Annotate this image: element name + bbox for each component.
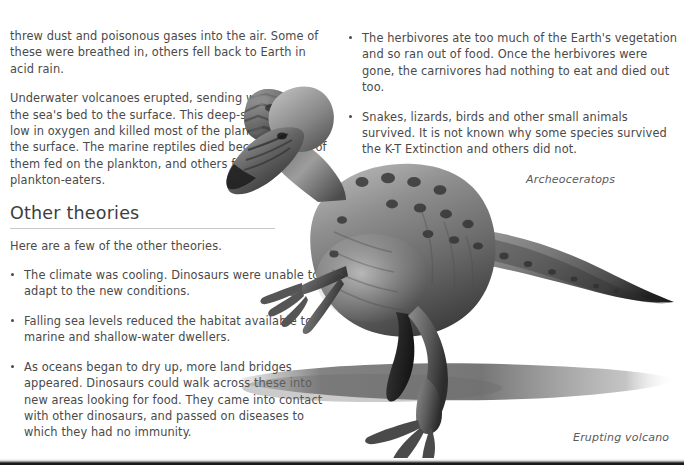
book-page: threw dust and poisonous gases into the … <box>0 0 684 465</box>
list-item-text: Snakes, lizards, birds and other small a… <box>362 110 667 157</box>
other-theories-list: The climate was cooling. Dinosaurs were … <box>10 267 332 441</box>
bullet-dot-icon <box>11 273 14 276</box>
list-item: The climate was cooling. Dinosaurs were … <box>10 267 332 300</box>
dinosaur-far-hind-leg <box>386 312 414 402</box>
dinosaur-hind-foot <box>365 420 435 458</box>
section-divider <box>10 228 275 229</box>
caption-erupting-volcano: Erupting volcano <box>573 431 669 444</box>
caption-archeoceratops: Archeoceratops <box>526 173 615 186</box>
right-text-column: The herbivores ate too much of the Earth… <box>348 30 678 158</box>
section-heading-other-theories: Other theories <box>10 202 332 224</box>
dinosaur-hind-leg <box>408 306 448 421</box>
list-item: Snakes, lizards, birds and other small a… <box>348 109 678 158</box>
bullet-dot-icon <box>11 365 14 368</box>
bullet-dot-icon <box>349 36 352 39</box>
dinosaur-spots <box>329 173 636 298</box>
bullet-dot-icon <box>349 115 352 118</box>
list-item-text: The climate was cooling. Dinosaurs were … <box>24 268 319 298</box>
list-item-text: The herbivores ate too much of the Earth… <box>362 31 677 94</box>
list-item-text: As oceans began to dry up, more land bri… <box>24 360 322 440</box>
paragraph-underwater-volcanoes: Underwater volcanoes erupted, sending wa… <box>10 90 332 188</box>
bullet-dot-icon <box>11 319 14 322</box>
dinosaur-tail <box>452 228 674 303</box>
extinction-effects-list: The herbivores ate too much of the Earth… <box>348 30 678 158</box>
list-item: Falling sea levels reduced the habitat a… <box>10 313 332 346</box>
left-text-column: threw dust and poisonous gases into the … <box>10 28 332 441</box>
list-item: As oceans began to dry up, more land bri… <box>10 359 332 441</box>
list-item: The herbivores ate too much of the Earth… <box>348 30 678 96</box>
dinosaur-body <box>310 164 495 337</box>
paragraph-continuation: threw dust and poisonous gases into the … <box>10 28 332 77</box>
section-intro-text: Here are a few of the other theories. <box>10 238 332 254</box>
dinosaur-texture <box>330 212 473 310</box>
list-item-text: Falling sea levels reduced the habitat a… <box>24 314 312 344</box>
